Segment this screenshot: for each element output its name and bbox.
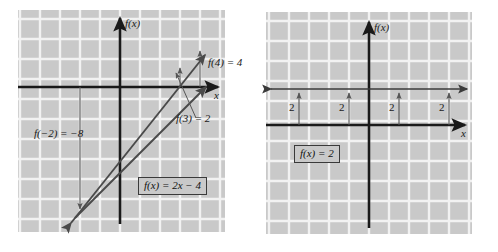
annotation-f3: f(3) = 2 bbox=[176, 113, 210, 124]
right-panel: f(x) x 2 2 2 2 f(x) = 2 bbox=[266, 12, 472, 234]
annotation-fneg2: f(−2) = −8 bbox=[34, 128, 83, 139]
figure-stage: f(x) x f(4) = 4 f(3) = 2 f(−2) = −8 f(x)… bbox=[0, 0, 498, 252]
right-value-label-4: 2 bbox=[439, 102, 445, 113]
annotation-f4: f(4) = 4 bbox=[208, 57, 242, 68]
left-graph-of-f bbox=[71, 55, 205, 223]
left-panel: f(x) x f(4) = 4 f(3) = 2 f(−2) = −8 f(x)… bbox=[18, 10, 225, 232]
right-x-axis-label: x bbox=[461, 128, 466, 139]
left-equation-box: f(x) = 2x − 4 bbox=[138, 177, 207, 195]
right-y-axis-label: f(x) bbox=[374, 22, 389, 33]
right-value-label-2: 2 bbox=[339, 102, 345, 113]
right-equation-box: f(x) = 2 bbox=[294, 145, 340, 163]
left-x-axis-label: x bbox=[214, 90, 219, 101]
right-value-label-1: 2 bbox=[289, 102, 295, 113]
right-graph-svg bbox=[266, 12, 472, 234]
right-panel-plot-area: f(x) x 2 2 2 2 f(x) = 2 bbox=[266, 12, 472, 234]
right-value-label-3: 2 bbox=[389, 102, 395, 113]
left-panel-plot-area: f(x) x f(4) = 4 f(3) = 2 f(−2) = −8 f(x)… bbox=[18, 10, 225, 232]
left-y-axis-label: f(x) bbox=[125, 18, 140, 29]
